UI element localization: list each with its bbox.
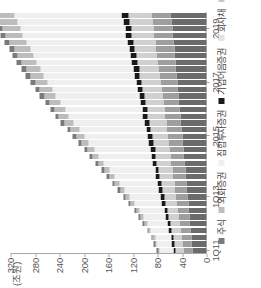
legend-item[interactable]: 기업어음증권 <box>214 48 227 103</box>
legend-item[interactable]: 외화증권 <box>214 173 227 213</box>
bar-segment <box>67 127 70 132</box>
bar-1Q17[interactable] <box>35 87 206 92</box>
bar-segment <box>131 60 137 65</box>
bar-segment <box>60 100 140 105</box>
bar-segment <box>128 13 151 18</box>
bar-1Q18[interactable] <box>16 60 206 65</box>
bar-4Q11[interactable] <box>147 228 206 233</box>
bar-segment <box>174 46 206 51</box>
bar-segment <box>175 194 187 199</box>
bar-segment <box>65 107 142 112</box>
bar-3Q16[interactable] <box>45 100 206 105</box>
bar-segment <box>149 120 166 125</box>
bar-4Q14[interactable] <box>84 147 206 152</box>
bar-segment <box>157 60 175 65</box>
bar-4Q13[interactable] <box>106 174 206 179</box>
bar-segment <box>153 241 154 246</box>
bar-1Q11[interactable] <box>156 248 206 253</box>
bar-4Q17[interactable] <box>21 66 206 71</box>
bar-segment <box>136 53 157 58</box>
bar-segment <box>0 13 14 18</box>
bar-3Q14[interactable] <box>89 154 206 159</box>
bar-2Q15[interactable] <box>72 134 206 139</box>
bar-4Q19[interactable] <box>0 13 206 18</box>
bar-segment <box>185 167 206 172</box>
bar-segment <box>160 80 177 85</box>
legend-label: 집합투자증권 <box>214 111 227 157</box>
bar-segment <box>95 161 97 166</box>
bar-2Q12[interactable] <box>138 214 206 219</box>
bar-3Q13[interactable] <box>112 181 206 186</box>
bar-1Q14[interactable] <box>101 167 206 172</box>
bar-segment <box>64 120 73 125</box>
bar-4Q15[interactable] <box>60 120 206 125</box>
legend-item[interactable]: 회사채 <box>214 9 227 41</box>
bar-2Q17[interactable] <box>30 80 206 85</box>
bar-segment <box>156 161 170 166</box>
bar-segment <box>178 214 189 219</box>
bar-segment <box>156 53 174 58</box>
y-axis-tick-label: 200 <box>78 258 89 273</box>
bar-segment <box>188 208 206 213</box>
bar-2Q14[interactable] <box>95 161 206 166</box>
bar-1Q15[interactable] <box>78 140 206 145</box>
bar-segment <box>161 201 165 206</box>
bar-2Q16[interactable] <box>50 107 206 112</box>
bar-segment <box>55 93 138 98</box>
bar-1Q16[interactable] <box>55 114 206 119</box>
legend-item[interactable]: 주식 <box>214 220 227 244</box>
bar-segment <box>39 87 51 92</box>
legend-item[interactable]: 특수채 <box>214 0 227 2</box>
bar-4Q16[interactable] <box>39 93 206 98</box>
bar-2Q11[interactable] <box>153 241 206 246</box>
bar-2Q13[interactable] <box>117 187 206 192</box>
bar-1Q13[interactable] <box>123 194 206 199</box>
bar-4Q12[interactable] <box>128 201 206 206</box>
bar-segment <box>134 46 155 51</box>
bar-segment <box>152 19 172 24</box>
y-axis-tick <box>133 254 134 257</box>
plot-area: 04080120160200240280320 1Q111Q1320152017… <box>10 12 206 254</box>
bar-segment <box>173 235 181 240</box>
bar-segment <box>68 114 142 119</box>
bar-2Q19[interactable] <box>0 26 206 31</box>
bar-segment <box>182 140 206 145</box>
bar-1Q12[interactable] <box>142 221 206 226</box>
bar-3Q19[interactable] <box>0 19 206 24</box>
y-axis-tick-label: 40 <box>176 258 187 268</box>
bar-segment <box>166 120 181 125</box>
bar-segment <box>143 214 165 219</box>
legend-swatch-icon <box>218 207 224 213</box>
bar-3Q15[interactable] <box>67 127 206 132</box>
bar-1Q19[interactable] <box>0 33 206 38</box>
bar-segment <box>134 73 140 78</box>
legend-label: 기업어음증권 <box>214 48 227 94</box>
bar-segment <box>159 174 172 179</box>
bar-segment <box>26 66 40 71</box>
bar-segment <box>134 208 136 213</box>
legend-item[interactable]: 집합투자증권 <box>214 111 227 166</box>
bar-segment <box>98 154 151 159</box>
bar-segment <box>171 19 206 24</box>
bar-segment <box>22 33 125 38</box>
bar-segment <box>130 53 136 58</box>
bar-4Q18[interactable] <box>4 40 206 45</box>
legend-swatch-icon <box>218 238 224 244</box>
bar-segment <box>178 93 206 98</box>
bar-segment <box>157 181 161 186</box>
bar-segment <box>151 13 171 18</box>
legend-swatch-icon <box>218 0 224 2</box>
bar-segment <box>178 100 206 105</box>
bar-3Q11[interactable] <box>151 235 206 240</box>
bar-segment <box>172 26 206 31</box>
bar-segment <box>176 73 206 78</box>
bar-2Q18[interactable] <box>12 53 206 58</box>
bar-segment <box>87 147 94 152</box>
bar-3Q12[interactable] <box>134 208 206 213</box>
bar-segment <box>142 221 144 226</box>
bar-segment <box>94 147 150 152</box>
bar-3Q17[interactable] <box>25 73 206 78</box>
bar-3Q18[interactable] <box>9 46 206 51</box>
bar-segment <box>155 147 170 152</box>
bar-segment <box>147 228 148 233</box>
